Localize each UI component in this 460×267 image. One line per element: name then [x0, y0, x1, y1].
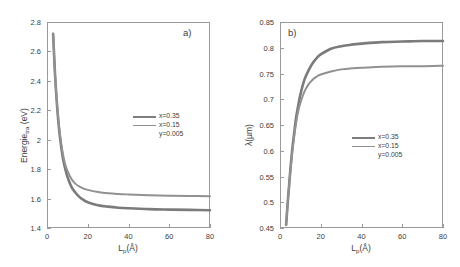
legend-swatch-icon	[352, 137, 375, 139]
series-line	[53, 34, 210, 196]
legend-label: y=0.005	[378, 150, 402, 161]
x-axis-label-a-sub: p	[123, 247, 126, 254]
y-axis-label-b-main: λ(µm)	[244, 124, 254, 146]
legend-label: y=0.005	[159, 129, 183, 140]
y-axis-label-a: Energietra (eV)	[19, 108, 29, 163]
figure-container: a) 1.41.61.822.22.42.62.8 020406080 Lp(Å…	[0, 0, 460, 267]
curves-a	[0, 0, 230, 267]
y-axis-label-b: λ(µm)	[244, 124, 254, 146]
y-axis-label-a-main: Energie	[19, 134, 29, 163]
y-axis-label-a-unit: (eV)	[19, 108, 29, 126]
x-axis-label-a-unit: (Å)	[126, 243, 137, 253]
legend-swatch-icon	[133, 125, 156, 126]
legend-item: y=0.005	[352, 151, 402, 160]
legend-item: y=0.005	[133, 130, 183, 139]
panel-b: b) 0.450.50.550.60.650.70.750.80.85 0204…	[230, 0, 460, 267]
panel-a: a) 1.41.61.822.22.42.62.8 020406080 Lp(Å…	[0, 0, 230, 267]
legend-swatch-icon	[352, 146, 375, 147]
x-axis-label-a: Lp(Å)	[118, 243, 137, 253]
y-axis-label-a-sub: tra	[23, 127, 30, 134]
legend-b: x=0.35x=0.15y=0.005	[352, 133, 402, 160]
curves-b	[230, 0, 460, 267]
x-axis-label-b-sub: p	[356, 247, 359, 254]
x-axis-label-b-unit: (Å)	[359, 243, 370, 253]
legend-swatch-icon	[133, 116, 156, 118]
x-axis-label-b: Lp(Å)	[351, 243, 370, 253]
legend-a: x=0.35x=0.15y=0.005	[133, 112, 183, 139]
